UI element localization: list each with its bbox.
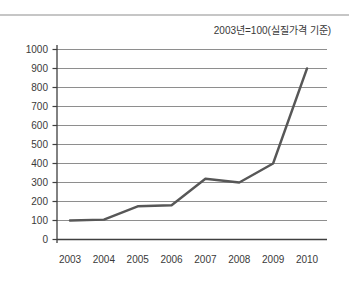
y-axis-label: 0 xyxy=(42,234,48,245)
chart-page: 2003년=100(실질가격 기준) 010020030040050060070… xyxy=(0,0,349,284)
y-axis-label: 900 xyxy=(31,63,48,74)
x-axis-label: 2004 xyxy=(93,254,116,265)
x-axis-label: 2009 xyxy=(262,254,285,265)
y-axis-label: 500 xyxy=(31,139,48,150)
y-axis-label: 100 xyxy=(31,215,48,226)
price-index-line-chart: 0100200300400500600700800900100020032004… xyxy=(0,0,349,284)
x-axis-label: 2006 xyxy=(160,254,183,265)
x-axis-label: 2010 xyxy=(296,254,319,265)
y-axis-label: 600 xyxy=(31,120,48,131)
y-axis-label: 700 xyxy=(31,101,48,112)
y-axis-label: 200 xyxy=(31,196,48,207)
x-axis-label: 2008 xyxy=(228,254,251,265)
x-axis-label: 2007 xyxy=(194,254,217,265)
y-axis-label: 400 xyxy=(31,158,48,169)
x-axis-label: 2003 xyxy=(59,254,82,265)
y-axis-label: 1000 xyxy=(26,44,49,55)
y-axis-label: 800 xyxy=(31,82,48,93)
y-axis-label: 300 xyxy=(31,177,48,188)
x-axis-label: 2005 xyxy=(127,254,150,265)
